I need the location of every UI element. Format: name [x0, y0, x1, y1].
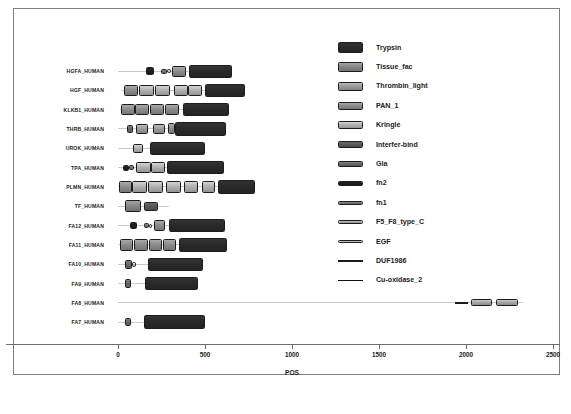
- protein-track: THRB_HUMAN: [0, 121, 571, 137]
- domain-block-pan-1[interactable]: [135, 104, 149, 116]
- domain-block-trypsin[interactable]: [179, 238, 227, 252]
- x-axis-tick-label: 2000: [459, 351, 473, 358]
- domain-block-kringle[interactable]: [139, 85, 155, 96]
- domain-block-fn1[interactable]: [129, 165, 134, 170]
- domain-block-kringle[interactable]: [188, 85, 202, 96]
- domain-block-gla[interactable]: [125, 260, 132, 269]
- protein-track-label: FA10_HUMAN: [69, 261, 104, 267]
- domain-block-pan-1[interactable]: [154, 220, 165, 231]
- domain-block-duf1986[interactable]: [455, 302, 468, 304]
- protein-track-label: FA8_HUMAN: [72, 300, 104, 306]
- domain-block-pan-1[interactable]: [149, 239, 162, 251]
- legend-label: fn2: [376, 179, 387, 187]
- domain-block-trypsin[interactable]: [148, 258, 203, 271]
- x-axis-tick-label: 1000: [285, 351, 299, 358]
- legend-label: DUF1986: [376, 257, 406, 265]
- legend-label: Tissue_fac: [376, 63, 413, 71]
- domain-block-trypsin[interactable]: [175, 122, 226, 136]
- domain-block-pan-1[interactable]: [119, 181, 131, 193]
- domain-block-trypsin[interactable]: [150, 142, 205, 155]
- domain-block-pan-1[interactable]: [124, 85, 138, 97]
- x-axis-tick: [379, 345, 380, 349]
- legend-swatch-trypsin: [338, 42, 363, 54]
- domain-block-thrombin-light[interactable]: [136, 124, 148, 134]
- legend-label: Cu-oxidase_2: [376, 276, 422, 284]
- domain-block-fn2[interactable]: [123, 165, 129, 171]
- domain-block-pan-1[interactable]: [150, 104, 164, 116]
- domain-block-kringle[interactable]: [155, 85, 170, 96]
- domain-block-trypsin[interactable]: [169, 219, 225, 233]
- domain-block-fn2[interactable]: [130, 222, 137, 230]
- legend-swatch-f5-f8-type-c: [338, 220, 363, 224]
- domain-block-pan-1[interactable]: [120, 239, 134, 251]
- protein-track-label: UROK_HUMAN: [66, 145, 104, 151]
- legend-swatch-kringle: [338, 121, 363, 129]
- domain-block-kringle[interactable]: [202, 181, 215, 193]
- domain-block-f5-f8-type-c[interactable]: [496, 299, 518, 306]
- domain-block-trypsin[interactable]: [189, 65, 232, 78]
- domain-block-thrombin-light[interactable]: [153, 124, 165, 134]
- protein-track-label: TF_HUMAN: [75, 203, 104, 209]
- legend-swatch-duf1986: [338, 260, 363, 262]
- domain-block-kringle[interactable]: [148, 181, 163, 193]
- legend-swatch-pan-1: [338, 102, 363, 111]
- protein-track: FA12_HUMAN: [0, 218, 571, 234]
- x-axis-tick-label: 0: [116, 351, 120, 358]
- domain-block-f5-f8-type-c[interactable]: [471, 299, 492, 306]
- x-axis-line: [6, 344, 560, 345]
- protein-track-label: HGFA_HUMAN: [67, 68, 104, 74]
- x-axis-tick-label: 2500: [546, 351, 560, 358]
- x-axis-tick: [292, 345, 293, 349]
- domain-block-pan-1[interactable]: [172, 66, 186, 77]
- legend-label: fn1: [376, 199, 387, 207]
- domain-block-kringle[interactable]: [151, 162, 165, 173]
- domain-block-kringle[interactable]: [174, 85, 188, 96]
- domain-block-egf[interactable]: [132, 262, 136, 267]
- legend-label: Thrombin_light: [376, 82, 428, 90]
- domain-block-trypsin[interactable]: [205, 84, 245, 97]
- domain-block-fn2[interactable]: [146, 67, 153, 75]
- domain-block-pan-1[interactable]: [121, 104, 135, 116]
- domain-block-gla[interactable]: [125, 279, 131, 288]
- domain-block-trypsin[interactable]: [167, 161, 224, 175]
- legend-label: PAN_1: [376, 102, 398, 110]
- domain-block-egf[interactable]: [167, 69, 171, 73]
- legend-swatch-interfer-bind: [338, 141, 363, 148]
- protein-track: FA9_HUMAN: [0, 276, 571, 292]
- domain-block-trypsin[interactable]: [218, 180, 256, 194]
- domain-block-pan-1[interactable]: [165, 104, 179, 116]
- legend-swatch-thrombin-light: [338, 82, 363, 92]
- domain-block-kringle[interactable]: [166, 181, 180, 193]
- protein-track-label: FA7_HUMAN: [72, 319, 104, 325]
- domain-block-egf[interactable]: [149, 224, 153, 228]
- domain-block-interfer-bind[interactable]: [144, 202, 159, 211]
- protein-track-label: PLMN_HUMAN: [66, 184, 104, 190]
- domain-block-pan-1[interactable]: [163, 239, 176, 251]
- protein-domain-chart: HGFA_HUMANHGF_HUMANKLKB1_HUMANTHRB_HUMAN…: [0, 0, 571, 414]
- domain-block-kringle[interactable]: [136, 162, 150, 173]
- protein-track-label: FA12_HUMAN: [69, 223, 104, 229]
- domain-block-pan-1[interactable]: [134, 239, 148, 251]
- domain-block-kringle[interactable]: [133, 144, 143, 154]
- domain-block-gla[interactable]: [125, 318, 131, 326]
- domain-block-tissue-fac[interactable]: [125, 200, 141, 212]
- legend-swatch-cu-oxidase-2: [338, 280, 363, 281]
- legend-swatch-egf: [338, 240, 363, 243]
- protein-track: TF_HUMAN: [0, 198, 571, 214]
- domain-block-pan-1[interactable]: [168, 123, 176, 134]
- protein-track-label: KLKB1_HUMAN: [64, 107, 104, 113]
- domain-block-trypsin[interactable]: [144, 315, 206, 329]
- domain-block-gla[interactable]: [127, 125, 133, 134]
- protein-track-label: HGF_HUMAN: [70, 87, 104, 93]
- x-axis-tick: [466, 345, 467, 349]
- domain-block-fn1[interactable]: [144, 223, 149, 228]
- protein-track: TPA_HUMAN: [0, 160, 571, 176]
- domain-block-kringle[interactable]: [184, 181, 198, 193]
- protein-track: HGF_HUMAN: [0, 82, 571, 98]
- x-axis-tick-label: 500: [200, 351, 211, 358]
- domain-block-trypsin[interactable]: [183, 103, 229, 117]
- legend-swatch-fn1: [338, 201, 363, 205]
- domain-block-fn1[interactable]: [161, 69, 166, 74]
- domain-block-kringle[interactable]: [132, 181, 147, 193]
- domain-block-trypsin[interactable]: [145, 277, 198, 290]
